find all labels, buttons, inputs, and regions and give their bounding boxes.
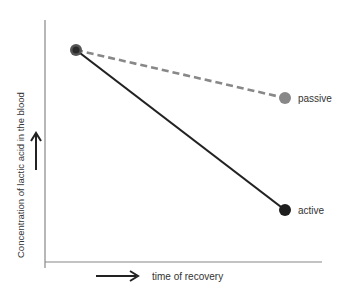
active-line xyxy=(76,50,285,210)
recovery-diagram: passive active Concentration of lactic a… xyxy=(0,0,345,294)
y-axis-label: Concentration of lactic acid in the bloo… xyxy=(15,92,26,258)
x-axis-label: time of recovery xyxy=(152,271,223,282)
start-point-core xyxy=(73,47,80,54)
active-end-point xyxy=(279,204,291,216)
passive-label: passive xyxy=(298,93,332,104)
passive-end-point xyxy=(279,92,291,104)
active-label: active xyxy=(298,205,325,216)
